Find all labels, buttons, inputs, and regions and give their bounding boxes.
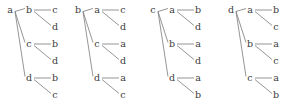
tree-2-leaf-node-0-0: b [195,5,201,15]
tree-1-edge-root-to-branch-0 [83,9,93,12]
tree-2-branch-node-1: b [169,39,175,49]
tree-0-edge-root-to-branch-0 [15,9,25,12]
tree-0-leaf-node-0-0: c [52,5,57,15]
tree-3-edge-root-to-branch-0 [236,9,246,12]
tree-1-edge-branch-0-to-leaf-1 [102,12,119,26]
tree-0-branch-node-0: b [26,5,32,15]
tree-3-edge-branch-0-to-leaf-1 [255,12,272,26]
tree-1-leaf-node-1-1: d [120,56,126,66]
tree-1-edge-root-to-branch-1 [83,12,93,43]
tree-0-edge-branch-1-to-leaf-1 [34,46,51,60]
tree-2-leaf-node-2-1: b [195,90,201,100]
tree-0-leaf-node-1-0: b [52,39,58,49]
tree-3-leaf-node-1-1: c [273,56,278,66]
tree-0-edge-root-to-branch-1 [15,12,25,43]
tree-0-edge-root-to-branch-2 [15,12,25,77]
tree-1-edge-root-to-branch-2 [83,12,93,77]
tree-2-edge-branch-2-to-leaf-1 [177,80,194,94]
tree-1-edge-branch-1-to-leaf-1 [102,46,119,60]
tree-0-edge-branch-0-to-leaf-1 [34,12,51,26]
tree-1-branch-node-0: a [94,5,100,15]
tree-1-branch-node-2: d [94,73,100,83]
tree-3-edge-root-to-branch-2 [236,12,246,77]
tree-1-root-node: b [75,5,81,15]
tree-2-edge-branch-1-to-leaf-1 [177,46,194,60]
tree-1-leaf-node-2-1: c [120,90,125,100]
tree-3-leaf-node-2-1: b [273,90,279,100]
tree-1-edge-branch-2-to-leaf-1 [102,80,119,94]
tree-1-leaf-node-2-0: a [120,73,126,83]
tree-0-leaf-node-0-1: d [52,22,58,32]
tree-3-leaf-node-1-0: a [273,39,279,49]
tree-0-leaf-node-2-1: c [52,90,57,100]
tree-2-edge-branch-0-to-leaf-1 [177,12,194,26]
tree-0-branch-node-2: d [26,73,32,83]
tree-3-edge-branch-1-to-leaf-1 [255,46,272,60]
tree-3-branch-node-2: c [247,73,252,83]
tree-2-edge-root-to-branch-0 [158,9,168,12]
tree-3-branch-node-1: b [247,39,253,49]
tree-edges-canvas [0,0,297,106]
tree-3-branch-node-0: a [247,5,253,15]
tree-3-root-node: d [228,5,234,15]
tree-3-leaf-node-2-0: a [273,73,279,83]
tree-0-root-node: a [7,5,13,15]
tree-3-edge-root-to-branch-1 [236,12,246,43]
tree-2-edge-root-to-branch-2 [158,12,168,77]
tree-0-branch-node-1: c [26,39,31,49]
tree-0-leaf-node-2-0: b [52,73,58,83]
tree-1-branch-node-1: c [94,39,99,49]
tree-1-leaf-node-0-0: c [120,5,125,15]
tree-2-edge-root-to-branch-1 [158,12,168,43]
tree-1-leaf-node-0-1: d [120,22,126,32]
tree-3-edge-branch-2-to-leaf-1 [255,80,272,94]
tree-3-leaf-node-0-1: c [273,22,278,32]
tree-2-leaf-node-1-1: d [195,56,201,66]
tree-3-leaf-node-0-0: b [273,5,279,15]
tree-2-branch-node-2: d [169,73,175,83]
tree-0-edge-branch-2-to-leaf-1 [34,80,51,94]
tree-2-leaf-node-1-0: a [195,39,201,49]
permutation-tree-forest: abcdcbddbcbacdcaddaccabdbaddabdabcbaccab [0,0,297,106]
tree-2-leaf-node-2-0: a [195,73,201,83]
tree-2-leaf-node-0-1: d [195,22,201,32]
tree-2-branch-node-0: a [169,5,175,15]
tree-1-leaf-node-1-0: a [120,39,126,49]
tree-0-leaf-node-1-1: d [52,56,58,66]
tree-2-root-node: c [150,5,155,15]
